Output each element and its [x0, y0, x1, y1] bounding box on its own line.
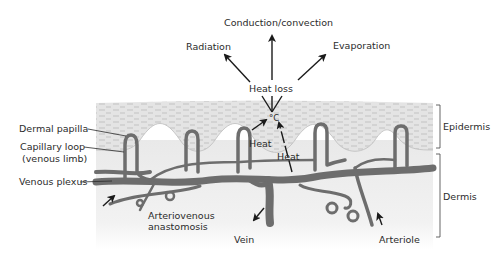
- label-evaporation: Evaporation: [333, 40, 390, 51]
- label-venous-plexus: Venous plexus: [19, 176, 87, 187]
- label-heat-1: Heat: [249, 138, 272, 149]
- label-epidermis: Epidermis: [443, 121, 490, 132]
- label-venous-limb: (venous limb): [22, 153, 87, 164]
- label-arteriole: Arteriole: [379, 234, 420, 245]
- label-anastomosis: anastomosis: [148, 221, 208, 232]
- label-heat-2: Heat: [277, 151, 300, 162]
- label-dermal-papilla: Dermal papilla: [19, 123, 88, 134]
- label-vein: Vein: [234, 234, 254, 245]
- temperature-symbol: °C: [269, 113, 279, 124]
- label-conduction-convection: Conduction/convection: [224, 17, 333, 28]
- label-dermis: Dermis: [443, 191, 477, 202]
- layer-brackets: [436, 105, 440, 237]
- label-radiation: Radiation: [186, 41, 231, 52]
- label-capillary-loop: Capillary loop: [20, 141, 85, 152]
- label-arteriovenous: Arteriovenous: [148, 210, 215, 221]
- label-heat-loss: Heat loss: [249, 83, 293, 94]
